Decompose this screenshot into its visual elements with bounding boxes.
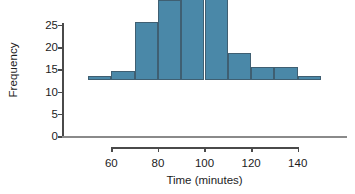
histogram-bars	[62, 0, 347, 137]
y-tick-label: 25	[45, 19, 58, 31]
histogram-bar	[111, 71, 134, 80]
x-tick-label: 100	[195, 157, 214, 169]
x-tick-mark	[251, 147, 253, 152]
histogram-bar	[251, 67, 274, 80]
histogram-figure: Frequency 0510152025 6080100120140 Time …	[0, 0, 355, 194]
y-axis-title: Frequency	[0, 0, 26, 140]
y-axis-title-text: Frequency	[7, 42, 19, 97]
y-axis-tick-labels: 0510152025	[26, 0, 62, 194]
y-tick-label: 20	[45, 41, 58, 53]
x-axis-title: Time (minutes)	[62, 174, 347, 186]
x-tick-label: 120	[242, 157, 261, 169]
x-tick-mark	[158, 147, 160, 152]
x-tick-label: 80	[151, 157, 164, 169]
histogram-bar	[298, 76, 321, 80]
histogram-bar	[181, 0, 204, 80]
histogram-bar	[274, 67, 297, 80]
x-axis-spine-group	[62, 147, 347, 157]
histogram-bar	[88, 76, 111, 80]
plot-area: 6080100120140 Time (minutes)	[62, 0, 347, 194]
histogram-bar	[228, 53, 251, 80]
y-tick-label: 10	[45, 86, 58, 98]
histogram-bar	[205, 0, 228, 80]
histogram-bar	[158, 0, 181, 80]
y-tick-label: 15	[45, 63, 58, 75]
x-axis-tick-labels: 6080100120140	[62, 157, 347, 173]
x-tick-mark	[204, 147, 206, 152]
x-tick-label: 140	[288, 157, 307, 169]
x-tick-mark	[298, 147, 300, 152]
x-tick-label: 60	[105, 157, 118, 169]
x-axis-spine	[111, 147, 297, 149]
histogram-bar	[135, 22, 158, 80]
x-tick-mark	[111, 147, 113, 152]
